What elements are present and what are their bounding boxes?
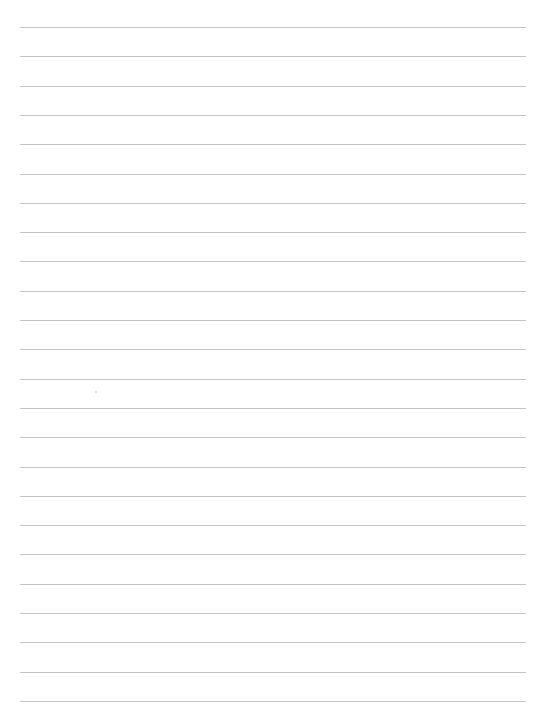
ruled-line: [20, 320, 526, 321]
ruled-line: [20, 261, 526, 262]
ruled-line: [20, 232, 526, 233]
paper-speck: [95, 391, 97, 393]
ruled-line: [20, 584, 526, 585]
ruled-line: [20, 56, 526, 57]
ruled-line: [20, 642, 526, 643]
ruled-line: [20, 437, 526, 438]
ruled-line: [20, 174, 526, 175]
ruled-line: [20, 408, 526, 409]
ruled-line: [20, 144, 526, 145]
ruled-line: [20, 496, 526, 497]
ruled-line: [20, 349, 526, 350]
ruled-line: [20, 86, 526, 87]
ruled-line: [20, 613, 526, 614]
ruled-line: [20, 554, 526, 555]
ruled-line: [20, 467, 526, 468]
ruled-line: [20, 203, 526, 204]
ruled-line: [20, 291, 526, 292]
ruled-line: [20, 115, 526, 116]
ruled-line: [20, 525, 526, 526]
ruled-line: [20, 379, 526, 380]
lined-paper-page: [0, 0, 543, 724]
ruled-line: [20, 27, 526, 28]
ruled-line: [20, 672, 526, 673]
ruled-line: [20, 701, 526, 702]
